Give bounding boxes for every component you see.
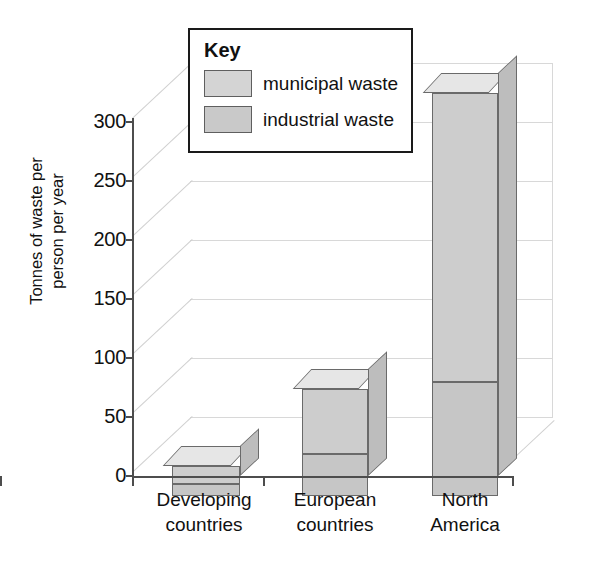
y-axis-tick-labels: 300 250 200 150 100 50 0	[60, 0, 126, 568]
x-label-european-line-2: countries	[260, 512, 410, 537]
bar-european-top-face	[293, 369, 378, 389]
depth-line-50	[132, 357, 193, 414]
legend-swatch-municipal-waste	[204, 70, 252, 97]
bar-developing-segment-municipal	[172, 466, 240, 484]
depth-line-300	[132, 62, 193, 119]
y-tick-mark-300	[126, 121, 133, 123]
legend-item-municipal-waste: municipal waste	[204, 70, 411, 97]
y-tick-mark-50	[126, 416, 133, 418]
x-label-north-america-line-1: North	[390, 487, 540, 512]
bar-north-america-top-face	[423, 73, 508, 93]
x-label-european-line-1: European	[260, 487, 410, 512]
bar-north-america-segment-municipal	[432, 93, 498, 382]
bar-developing-side-face	[240, 428, 259, 476]
chart-canvas: Tonnes of waste per person per year 300 …	[0, 0, 598, 568]
legend-label-municipal-waste: municipal waste	[263, 73, 398, 95]
bar-european-segment-municipal	[302, 389, 368, 454]
depth-line-150	[132, 239, 193, 296]
y-tick-mark-200	[126, 239, 133, 241]
y-axis-title-line-1: Tonnes of waste per	[26, 101, 47, 361]
bar-european-side-face	[368, 351, 387, 476]
y-tick-label-250: 250	[94, 169, 126, 192]
y-tick-label-100: 100	[94, 346, 126, 369]
depth-line-200	[132, 180, 193, 237]
x-axis-line	[132, 476, 514, 478]
x-label-north-america-line-2: America	[390, 512, 540, 537]
bar-north-america-side-face	[498, 55, 517, 476]
x-label-developing-countries: Developing countries	[129, 487, 279, 537]
back-wall-right-edge	[552, 63, 553, 418]
legend-swatch-industrial-waste	[204, 106, 252, 133]
bar-north-america-segment-industrial	[432, 382, 498, 496]
x-tick-mark-end	[512, 476, 514, 486]
y-tick-label-150: 150	[94, 287, 126, 310]
y-tick-mark-150	[126, 298, 133, 300]
x-tick-mark-2	[0, 476, 2, 486]
bar-developing-top-face	[163, 446, 250, 466]
y-tick-mark-250	[126, 180, 133, 182]
depth-line-250	[132, 121, 193, 178]
legend-item-industrial-waste: industrial waste	[204, 106, 411, 133]
legend-title: Key	[204, 39, 411, 62]
x-tick-mark-start	[132, 476, 134, 486]
depth-line-100	[132, 298, 193, 355]
y-tick-label-200: 200	[94, 228, 126, 251]
y-tick-mark-100	[126, 357, 133, 359]
x-label-north-america: North America	[390, 487, 540, 537]
x-label-developing-line-2: countries	[129, 512, 279, 537]
x-tick-mark-1	[263, 476, 265, 486]
y-tick-label-0: 0	[115, 464, 126, 487]
legend-label-industrial-waste: industrial waste	[263, 109, 394, 131]
x-label-developing-line-1: Developing	[129, 487, 279, 512]
y-tick-label-300: 300	[94, 110, 126, 133]
x-axis-category-labels: Developing countries European countries …	[132, 487, 522, 557]
y-tick-label-50: 50	[104, 405, 126, 428]
x-label-european-countries: European countries	[260, 487, 410, 537]
legend-key-box: Key municipal waste industrial waste	[188, 28, 413, 153]
